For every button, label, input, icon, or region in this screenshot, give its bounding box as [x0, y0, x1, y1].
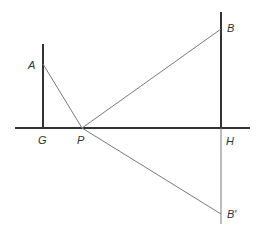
segment-AP — [43, 64, 82, 128]
segment-PB-prime — [82, 128, 221, 214]
label-H: H — [226, 135, 234, 147]
geometry-diagram: A B B′ G P H — [0, 0, 267, 239]
segment-PB — [82, 29, 221, 128]
label-P: P — [77, 134, 85, 146]
label-B: B — [227, 22, 234, 34]
label-B-prime: B′ — [227, 208, 237, 220]
label-G: G — [38, 134, 47, 146]
label-A: A — [27, 59, 35, 71]
